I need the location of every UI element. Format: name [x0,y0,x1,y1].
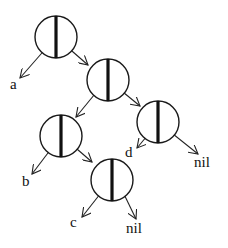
leaf-label-d: d [125,144,133,160]
leaf-label-nil1: nil [194,154,210,170]
tree-node [87,59,129,101]
leaf-label-nil2: nil [126,220,142,236]
leaf-label-b: b [22,173,30,189]
tree-diagram: abcdnilnil [0,0,228,248]
tree-node [91,159,133,201]
tree-node [137,101,179,143]
tree-node [40,115,82,157]
leaf-label-a: a [10,76,17,92]
tree-node [35,16,77,58]
leaf-label-c: c [70,214,77,230]
nodes [35,16,179,201]
